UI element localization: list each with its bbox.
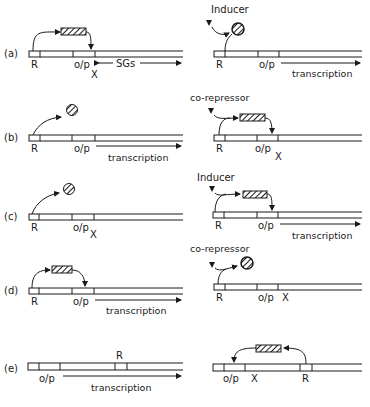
panel-label-d: (d) [4, 285, 18, 296]
binding-arrow [86, 32, 91, 49]
gene-label-R: R [215, 220, 222, 231]
gene-bar [214, 135, 362, 141]
gene-bar [214, 284, 362, 290]
inducer-molecule-icon [206, 20, 212, 26]
inactive-repressor-icon [64, 184, 75, 195]
repressor-protein-icon [61, 28, 86, 35]
gene-bar [29, 51, 183, 57]
gene-label-R: R [31, 296, 38, 307]
transcription-label: transcription [292, 230, 352, 241]
panel-c-right: Inducer R o/p transcription [197, 172, 362, 241]
gene-label-R: R [216, 292, 223, 303]
effector-label: Inducer [197, 172, 236, 183]
sgs-label: SGs [116, 58, 135, 69]
corepressor-molecule-icon [209, 262, 215, 268]
gene-bar [29, 288, 183, 294]
gene-label-R: R [302, 373, 309, 384]
effector-label: co-repressor [190, 92, 249, 103]
gene-label-R: R [116, 350, 123, 361]
synthesis-arrow [33, 117, 61, 135]
gene-bar [213, 212, 362, 218]
synthesis-arrow [32, 270, 50, 288]
block-label-X: X [282, 292, 289, 303]
block-label-X: X [275, 151, 282, 162]
panel-b-left: (b) R o/p transcription [4, 105, 183, 164]
panel-label-c: (c) [4, 211, 17, 222]
panel-a-right: Inducer R o/p transcription [206, 4, 362, 79]
gene-label-op: o/p [259, 59, 275, 70]
synthesis-arrow [284, 348, 306, 364]
gene-label-op: o/p [73, 222, 89, 233]
block-label-X: X [91, 69, 98, 80]
binding-arrow [72, 270, 85, 286]
binding-arrow [267, 194, 272, 210]
transcription-label: transcription [91, 382, 151, 393]
panel-d-right: co-repressor R o/p X [190, 243, 362, 303]
effector-label: co-repressor [190, 243, 249, 254]
panel-e-left: (e) R o/p transcription [4, 350, 183, 393]
gene-label-R: R [216, 59, 223, 70]
gene-label-op: o/p [74, 143, 90, 154]
transcription-label: transcription [292, 68, 352, 79]
gene-label-R: R [31, 143, 38, 154]
block-label-X: X [90, 229, 97, 240]
inducer-molecule-icon [209, 186, 215, 192]
activator-protein-icon [52, 266, 72, 273]
panel-label-b: (b) [4, 132, 18, 143]
panel-label-a: (a) [4, 48, 18, 59]
panel-b-right: co-repressor R o/p X [190, 92, 362, 162]
transcription-label: transcription [108, 152, 168, 163]
gene-bar [29, 135, 183, 141]
gene-bar [28, 363, 183, 370]
gene-label-op: o/p [258, 292, 274, 303]
gene-label-R: R [31, 59, 38, 70]
activator-complex-icon [243, 191, 267, 198]
inactive-repressor-icon [67, 105, 78, 116]
binding-arrow [234, 348, 256, 362]
gene-bar [214, 51, 362, 57]
gene-bar [29, 214, 183, 220]
gene-label-op: o/p [74, 59, 90, 70]
gene-label-op: o/p [255, 143, 271, 154]
binding-arrow [265, 118, 272, 133]
gene-label-op: o/p [39, 373, 55, 384]
gene-label-op: o/p [258, 220, 274, 231]
panel-e-right: o/p X R [213, 345, 362, 384]
panel-c-left: (c) R o/p X [4, 184, 183, 241]
transcription-label: transcription [106, 305, 166, 316]
operon-regulation-diagram: (a) R o/p X SGs Inducer R o [0, 0, 370, 407]
gene-bar [213, 364, 362, 371]
gene-label-op: o/p [223, 373, 239, 384]
block-label-X: X [251, 373, 258, 384]
panel-label-e: (e) [4, 363, 18, 374]
gene-label-op: o/p [73, 296, 89, 307]
inactivated-activator-icon [241, 257, 253, 269]
effector-label: Inducer [211, 4, 250, 15]
synthesis-arrow [32, 193, 59, 214]
panel-d-left: (d) R o/p transcription [4, 266, 183, 316]
inactive-repressor-icon [232, 23, 244, 35]
repressor-protein-icon [256, 345, 281, 352]
gene-label-R: R [216, 143, 223, 154]
gene-label-R: R [31, 222, 38, 233]
active-repressor-complex-icon [240, 114, 265, 121]
corepressor-molecule-icon [208, 108, 214, 114]
synthesis-arrow [33, 32, 60, 51]
panel-a-left: (a) R o/p X SGs [4, 28, 183, 80]
